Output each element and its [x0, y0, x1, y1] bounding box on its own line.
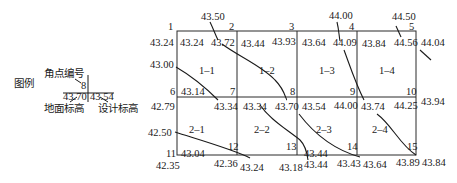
- value-11-in: 43.04: [181, 148, 205, 159]
- cell-2-4: 2–4: [372, 124, 389, 135]
- value-8-a: 43.34: [243, 101, 267, 112]
- corner-1: 1: [168, 21, 173, 32]
- value-10-right: 43.94: [421, 96, 445, 107]
- value-7-in: 43.34: [214, 101, 238, 112]
- grid-lines: [177, 31, 416, 155]
- value-9-b: 44.00: [334, 100, 358, 111]
- value-9-a: 43.54: [302, 101, 326, 112]
- value-15-b: 43.89: [396, 157, 420, 168]
- value-4-b: 44.09: [333, 37, 357, 48]
- label-44-00: 44.00: [329, 10, 353, 21]
- value-6-in: 43.14: [181, 86, 205, 97]
- corner-8: 8: [290, 86, 295, 97]
- value-14-a: 43.44: [304, 148, 328, 159]
- label-42-50: 42.50: [148, 127, 172, 138]
- value-5-a: 43.84: [362, 38, 386, 49]
- cell-2-2: 2–2: [254, 124, 270, 135]
- corner-11: 11: [166, 148, 176, 159]
- value-4-a: 43.64: [302, 37, 326, 48]
- corner-10: 10: [406, 86, 417, 97]
- label-44-50: 44.50: [392, 11, 416, 22]
- value-5-b: 44.56: [394, 37, 418, 48]
- label-43-50: 43.50: [201, 11, 225, 22]
- value-8-b: 43.70: [275, 101, 299, 112]
- value-12-b: 43.24: [240, 162, 264, 173]
- legend-design-elev: 43.54: [90, 91, 114, 102]
- legend-ground-elev: 43.70: [63, 91, 87, 102]
- corner-5: 5: [409, 21, 414, 32]
- corner-2: 2: [229, 21, 234, 32]
- value-2-in: 43.72: [211, 37, 235, 48]
- value-5-right: 44.04: [421, 37, 445, 48]
- value-15-a: 43.64: [363, 159, 387, 170]
- grid-diagram: 图例 角点编号 8 43.70 43.54 地面标高 设计标高 1 2 3 4 …: [0, 0, 457, 183]
- value-11-left: 42.35: [156, 160, 180, 171]
- corner-14: 14: [347, 141, 358, 152]
- cell-1-3: 1–3: [319, 65, 335, 76]
- cell-2-3: 2–3: [316, 124, 332, 135]
- value-13-below: 43.18: [279, 162, 303, 173]
- legend-corner-label: 角点编号: [44, 67, 84, 79]
- legend-design-label: 设计标高: [98, 102, 138, 114]
- legend-title: 图例: [14, 77, 34, 89]
- corner-9: 9: [350, 86, 355, 97]
- legend-corner-number: 8: [81, 80, 86, 91]
- value-6-left: 42.79: [151, 101, 175, 112]
- value-1-in: 43.24: [180, 37, 204, 48]
- corner-13: 13: [286, 141, 297, 152]
- value-12-below: 42.36: [214, 158, 238, 169]
- value-10-a: 43.74: [361, 101, 385, 112]
- value-14-below: 43.44: [304, 159, 328, 170]
- corner-3: 3: [289, 21, 294, 32]
- value-14-b: 43.43: [337, 158, 361, 169]
- cell-2-1: 2–1: [189, 124, 205, 135]
- cell-1-1: 1–1: [199, 65, 215, 76]
- corner-15: 15: [407, 141, 418, 152]
- corner-6: 6: [170, 86, 175, 97]
- value-15-right: 43.84: [422, 157, 446, 168]
- cell-1-4: 1–4: [379, 65, 396, 76]
- corner-7: 7: [230, 86, 235, 97]
- value-3-a: 43.44: [241, 38, 265, 49]
- legend-ground-label: 地面标高: [44, 102, 84, 114]
- corner-4: 4: [349, 21, 355, 32]
- cell-1-2: 1–2: [259, 65, 275, 76]
- value-10-b: 44.25: [394, 100, 418, 111]
- value-1-left: 43.24: [150, 37, 174, 48]
- corner-12: 12: [228, 141, 239, 152]
- value-3-b: 43.93: [272, 36, 296, 47]
- label-43-00: 43.00: [150, 59, 174, 70]
